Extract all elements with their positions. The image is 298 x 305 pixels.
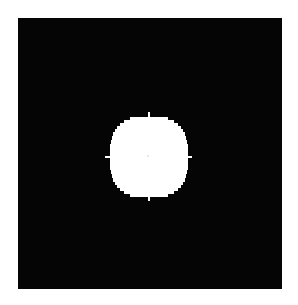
tick-left [105,156,111,158]
disk-body [110,117,188,197]
image-canvas [0,0,298,305]
tick-top [148,112,150,118]
white-disk [0,0,298,305]
center-dot [147,155,149,157]
tick-right [187,156,192,158]
tick-bottom [148,196,150,201]
